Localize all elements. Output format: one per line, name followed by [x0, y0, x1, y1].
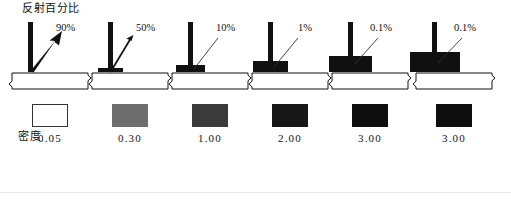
- density-swatch: [352, 104, 388, 127]
- substrate-bar: [412, 72, 496, 92]
- density-panel: 0.1%3.00: [328, 0, 412, 150]
- density-swatch: [192, 104, 228, 127]
- density-swatch: [272, 104, 308, 127]
- reflection-density-figure: 反射百分比 密度 90%0.0550%0.3010%1.001%2.000.1%…: [0, 0, 511, 203]
- substrate-bar: [168, 72, 252, 92]
- density-value-label: 2.00: [248, 132, 332, 144]
- density-panel: 50%0.30: [88, 0, 172, 150]
- density-swatch: [32, 104, 68, 127]
- substrate-bar: [328, 72, 412, 92]
- density-value-label: 0.05: [8, 132, 92, 144]
- substrate-bar: [88, 72, 172, 92]
- density-value-label: 0.30: [88, 132, 172, 144]
- density-value-label: 1.00: [168, 132, 252, 144]
- density-panel: 1%2.00: [248, 0, 332, 150]
- density-panel: 90%0.05: [8, 0, 92, 150]
- substrate-bar: [248, 72, 332, 92]
- density-swatch: [112, 104, 148, 127]
- substrate-bar: [8, 72, 92, 92]
- density-value-label: 3.00: [328, 132, 412, 144]
- density-panel: 0.1%3.00: [412, 0, 496, 150]
- density-swatch: [436, 104, 472, 127]
- density-value-label: 3.00: [412, 132, 496, 144]
- bottom-rule: [0, 192, 511, 193]
- density-panel: 10%1.00: [168, 0, 252, 150]
